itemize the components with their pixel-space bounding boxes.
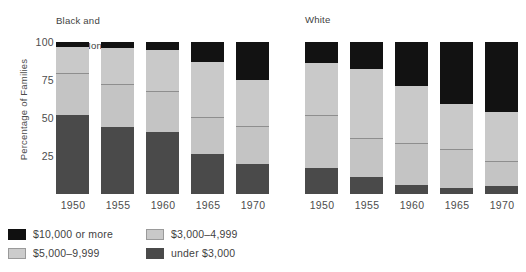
segment-white-1965-under-3-000 <box>440 188 473 194</box>
plot-area-white <box>305 42 517 194</box>
segment-white-1955-5-000-9-999 <box>350 69 383 139</box>
segment-nonwhite-1970-3-000-4-999 <box>236 127 269 163</box>
segment-nonwhite-1950-3-000-4-999 <box>56 74 89 115</box>
segment-nonwhite-1970-10-000-or-more <box>236 42 269 80</box>
segment-white-1970-10-000-or-more <box>485 42 518 112</box>
bar-nonwhite-1970[interactable] <box>236 42 269 194</box>
bar-white-1970[interactable] <box>485 42 518 194</box>
segment-nonwhite-1965-5-000-9-999 <box>191 62 224 118</box>
panel-black-and-other-nonwhite: Black and Other Nonwhite 1950 1955 1960 … <box>56 0 268 215</box>
x-tick-nonwhite-1965: 1965 <box>185 199 231 211</box>
x-tick-nonwhite-1970: 1970 <box>230 199 276 211</box>
segment-white-1970-under-3-000 <box>485 186 518 194</box>
segment-nonwhite-1965-under-3-000 <box>191 154 224 194</box>
legend-item-10000-or-more[interactable]: $10,000 or more <box>8 228 113 240</box>
segment-nonwhite-1970-5-000-9-999 <box>236 80 269 127</box>
legend-item-under-3000[interactable]: under $3,000 <box>146 247 235 259</box>
segment-white-1965-5-000-9-999 <box>440 104 473 150</box>
income-distribution-figure: Percentage of Families 100 75 50 25 Blac… <box>0 0 526 272</box>
segment-nonwhite-1965-10-000-or-more <box>191 42 224 62</box>
panel-title-nonwhite-line1: Black and <box>56 15 100 26</box>
bar-nonwhite-1955[interactable] <box>101 42 134 194</box>
y-tick-25: 25 <box>20 150 54 162</box>
segment-white-1950-5-000-9-999 <box>305 63 338 116</box>
bar-nonwhite-1950[interactable] <box>56 42 89 194</box>
segment-nonwhite-1955-5-000-9-999 <box>101 48 134 84</box>
panel-white: White 1950 1955 1960 1965 1970 <box>305 0 517 215</box>
segment-nonwhite-1970-under-3-000 <box>236 164 269 194</box>
bar-white-1960[interactable] <box>395 42 428 194</box>
segment-nonwhite-1950-under-3-000 <box>56 115 89 194</box>
segment-white-1955-under-3-000 <box>350 177 383 194</box>
segment-nonwhite-1955-under-3-000 <box>101 127 134 194</box>
legend-item-3000-4999[interactable]: $3,000–4,999 <box>146 228 238 240</box>
y-axis-ticks: 100 75 50 25 <box>16 0 54 200</box>
segment-white-1960-3-000-4-999 <box>395 144 428 185</box>
segment-white-1955-10-000-or-more <box>350 42 383 69</box>
x-tick-nonwhite-1950: 1950 <box>50 199 96 211</box>
x-tick-white-1950: 1950 <box>299 199 345 211</box>
black-swatch-icon <box>8 229 26 240</box>
midgray-swatch-icon <box>146 229 164 240</box>
legend-label-3000-4999: $3,000–4,999 <box>171 228 238 240</box>
segment-white-1960-under-3-000 <box>395 185 428 194</box>
bar-white-1965[interactable] <box>440 42 473 194</box>
x-tick-nonwhite-1955: 1955 <box>95 199 141 211</box>
y-tick-50: 50 <box>20 112 54 124</box>
segment-white-1960-5-000-9-999 <box>395 86 428 144</box>
segment-white-1960-10-000-or-more <box>395 42 428 86</box>
segment-white-1950-under-3-000 <box>305 168 338 194</box>
legend-label-5000-9999: $5,000–9,999 <box>33 247 100 259</box>
x-tick-white-1970: 1970 <box>479 199 525 211</box>
segment-white-1970-5-000-9-999 <box>485 112 518 162</box>
segment-nonwhite-1960-under-3-000 <box>146 132 179 194</box>
segment-white-1965-3-000-4-999 <box>440 150 473 188</box>
lightgray-swatch-icon <box>8 248 26 259</box>
x-tick-white-1960: 1960 <box>389 199 435 211</box>
panel-title-white: White <box>305 14 331 27</box>
segment-white-1965-10-000-or-more <box>440 42 473 104</box>
x-tick-white-1965: 1965 <box>434 199 480 211</box>
segment-white-1955-3-000-4-999 <box>350 139 383 177</box>
y-tick-75: 75 <box>20 74 54 86</box>
bar-white-1955[interactable] <box>350 42 383 194</box>
legend-item-5000-9999[interactable]: $5,000–9,999 <box>8 247 100 259</box>
dark-swatch-icon <box>146 248 164 259</box>
segment-white-1950-3-000-4-999 <box>305 116 338 168</box>
bar-white-1950[interactable] <box>305 42 338 194</box>
segment-white-1950-10-000-or-more <box>305 42 338 63</box>
segment-nonwhite-1960-10-000-or-more <box>146 42 179 50</box>
segment-nonwhite-1960-3-000-4-999 <box>146 92 179 132</box>
bar-nonwhite-1965[interactable] <box>191 42 224 194</box>
segment-nonwhite-1960-5-000-9-999 <box>146 50 179 93</box>
segment-nonwhite-1955-3-000-4-999 <box>101 85 134 128</box>
legend-label-10000-or-more: $10,000 or more <box>33 228 113 240</box>
segment-white-1970-3-000-4-999 <box>485 162 518 186</box>
segment-nonwhite-1965-3-000-4-999 <box>191 118 224 154</box>
plot-area-nonwhite <box>56 42 268 194</box>
bar-nonwhite-1960[interactable] <box>146 42 179 194</box>
y-tick-100: 100 <box>20 36 54 48</box>
x-tick-white-1955: 1955 <box>344 199 390 211</box>
segment-nonwhite-1950-5-000-9-999 <box>56 47 89 74</box>
legend-label-under-3000: under $3,000 <box>171 247 235 259</box>
x-tick-nonwhite-1960: 1960 <box>140 199 186 211</box>
